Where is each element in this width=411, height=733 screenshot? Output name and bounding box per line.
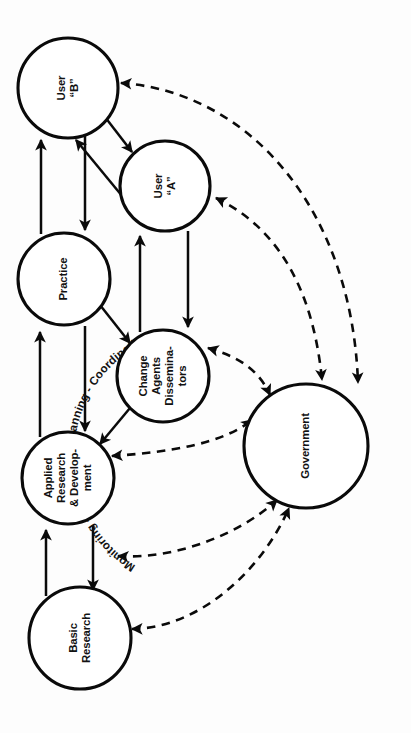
node-label-line: ment	[81, 464, 93, 491]
node-label-government: Government	[299, 413, 311, 479]
knowledge-flow-diagram: Monitoring - Facilitating - Planning - C…	[0, 0, 411, 733]
dashed-link-government-to-applied-research-lower	[118, 500, 277, 556]
node-label-user-b: User“B”	[55, 75, 80, 100]
node-label-line: “B”	[68, 78, 80, 97]
node-label-practice: Practice	[57, 257, 69, 300]
node-practice[interactable]: Practice	[18, 233, 110, 325]
nodes-group: User“B”User“A”PracticeChangeAgentsDissem…	[18, 38, 368, 689]
node-label-line: Agents	[150, 357, 162, 395]
node-user-a[interactable]: User“A”	[120, 141, 210, 231]
node-change-agents[interactable]: ChangeAgentsDissemina-tors	[117, 330, 209, 422]
node-label-line: Applied	[42, 457, 54, 498]
node-label-line: Government	[299, 413, 311, 479]
node-government[interactable]: Government	[244, 384, 368, 508]
node-label-user-a: User“A”	[152, 173, 177, 198]
dashed-link-government-to-change-agents	[208, 348, 270, 395]
link-practice-to-change-agents	[100, 305, 130, 343]
node-label-line: Research	[80, 613, 92, 663]
link-change-agents-to-applied-research	[100, 408, 130, 444]
dashed-link-government-to-applied-research	[112, 420, 252, 456]
dashed-link-government-to-basic-research	[132, 508, 289, 629]
node-label-line: Change	[137, 356, 149, 397]
node-label-line: “A”	[165, 176, 177, 195]
diagram-canvas: Monitoring - Facilitating - Planning - C…	[0, 0, 411, 733]
node-label-line: Research	[55, 453, 67, 503]
node-label-line: & Develop-	[68, 449, 80, 507]
node-label-line: Practice	[57, 257, 69, 300]
link-user-b-to-user-a	[105, 117, 132, 152]
node-label-line: User	[55, 75, 67, 100]
node-user-b[interactable]: User“B”	[18, 38, 118, 138]
node-applied-research[interactable]: AppliedResearch& Develop-ment	[22, 432, 114, 524]
node-label-line: Dissemina-	[163, 346, 175, 406]
node-basic-research[interactable]: BasicResearch	[29, 587, 131, 689]
dashed-link-government-to-user-a	[216, 198, 322, 380]
node-label-line: User	[152, 173, 164, 198]
node-label-line: tors	[176, 366, 188, 387]
node-label-line: Basic	[67, 623, 79, 653]
